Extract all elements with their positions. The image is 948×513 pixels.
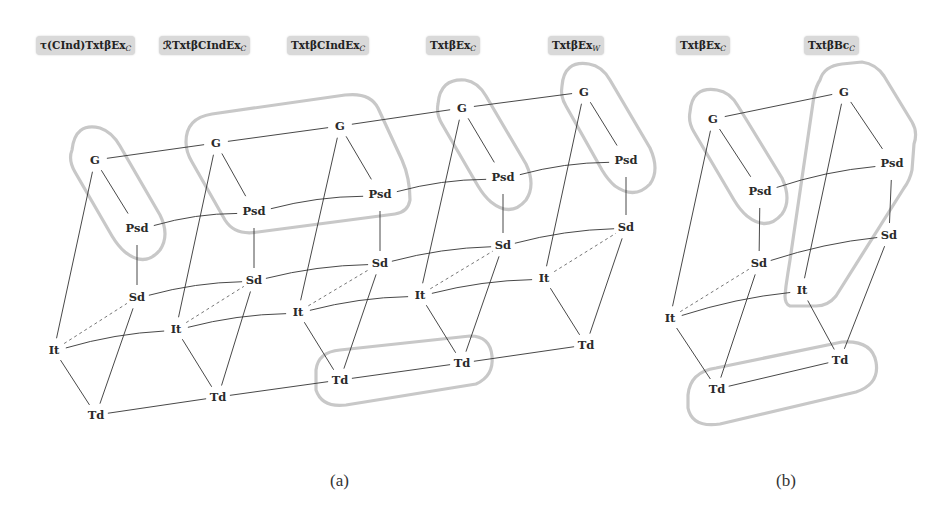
- edge-vertical: [301, 138, 338, 301]
- column-label-subscript: C: [849, 44, 855, 53]
- column-label: TxtβExC: [676, 36, 730, 55]
- edge-cross: [392, 247, 491, 262]
- edge-dashed: [64, 303, 127, 343]
- column-label: TxtβExW: [548, 36, 604, 55]
- edge-dashed: [680, 269, 749, 311]
- column-label-main: ℛTxtβCIndEx: [163, 39, 240, 51]
- column-label: ℛTxtβCIndExC: [159, 36, 250, 55]
- edge-vertical: [808, 301, 835, 350]
- edge-vertical: [61, 360, 90, 405]
- column-label-subscript: W: [592, 44, 600, 53]
- column-label-main: TxtβEx: [552, 39, 592, 51]
- node-psd: Psd: [748, 184, 771, 198]
- column-label: TxtβExC: [426, 36, 480, 55]
- node-psd: Psd: [880, 156, 903, 170]
- edge-cross: [515, 229, 614, 244]
- edge-cross: [188, 314, 286, 328]
- node-it: It: [49, 343, 60, 357]
- edges: [57, 94, 892, 414]
- node-it: It: [293, 305, 304, 319]
- node-td: Td: [454, 356, 471, 370]
- node-g: G: [839, 85, 849, 99]
- edge-cross: [149, 282, 242, 296]
- edge-cross: [230, 382, 328, 396]
- edge-cross: [729, 363, 829, 386]
- node-it: It: [539, 271, 550, 285]
- node-sd: Sd: [495, 238, 511, 252]
- node-td: Td: [210, 390, 227, 404]
- node-it: It: [665, 311, 676, 325]
- edge-vertical: [677, 328, 711, 379]
- edge-vertical: [759, 208, 760, 251]
- edge-vertical: [889, 180, 891, 223]
- edge-vertical: [547, 104, 582, 267]
- node-g: G: [335, 119, 345, 133]
- node-sd: Sd: [881, 228, 897, 242]
- edge-vertical: [468, 118, 494, 162]
- lattice-figure: GPsdSdItTdGPsdSdItTdGPsdSdItTdGPsdSdItTd…: [0, 0, 948, 513]
- edge-vertical: [101, 170, 128, 213]
- edge-cross: [682, 292, 791, 315]
- edge-vertical: [423, 120, 460, 284]
- edge-cross: [108, 399, 206, 413]
- edge-vertical: [844, 246, 884, 349]
- node-td: Td: [578, 338, 595, 352]
- subfigure-label-b: (b): [776, 471, 796, 491]
- node-psd: Psd: [125, 221, 148, 235]
- column-label-main: TxtβCIndEx: [291, 39, 359, 51]
- lattice-diagram: GPsdSdItTdGPsdSdItTdGPsdSdItTdGPsdSdItTd…: [0, 0, 948, 513]
- group-a5-G-Psd: [562, 63, 656, 192]
- edge-vertical: [179, 155, 214, 318]
- node-it: It: [415, 288, 426, 302]
- node-sd: Sd: [372, 256, 388, 270]
- column-label-main: TxtβEx: [430, 39, 470, 51]
- edge-cross: [352, 365, 450, 379]
- column-label: TxtβCIndExC: [287, 36, 369, 55]
- node-td: Td: [88, 408, 105, 422]
- column-label-subscript: C: [359, 44, 365, 53]
- group-b2-G-Psd-Sd-It: [785, 62, 916, 306]
- node-sd: Sd: [751, 256, 767, 270]
- edge-vertical: [590, 102, 617, 145]
- column-label-main: TxtβEx: [680, 39, 720, 51]
- node-td: Td: [832, 353, 849, 367]
- edge-cross: [725, 94, 832, 116]
- nodes: GPsdSdItTdGPsdSdItTdGPsdSdItTdGPsdSdItTd…: [49, 85, 904, 422]
- edge-vertical: [851, 102, 883, 149]
- edge-cross: [228, 128, 328, 142]
- edge-vertical: [550, 288, 579, 335]
- edge-vertical: [182, 339, 211, 387]
- edge-cross: [432, 280, 532, 294]
- node-it: It: [171, 322, 182, 336]
- node-g: G: [90, 153, 100, 167]
- node-g: G: [457, 101, 467, 115]
- group-b1-G-Psd: [690, 89, 788, 223]
- edge-dashed: [554, 233, 616, 271]
- edge-vertical: [57, 172, 93, 339]
- column-label-subscript: C: [125, 44, 131, 53]
- node-psd: Psd: [368, 187, 391, 201]
- column-label-subscript: C: [470, 44, 476, 53]
- edge-vertical: [720, 129, 751, 177]
- node-psd: Psd: [242, 204, 265, 218]
- edge-cross: [266, 265, 368, 279]
- group-a2a3-G-Psd: [186, 95, 410, 233]
- edge-cross: [66, 331, 164, 348]
- node-g: G: [579, 85, 589, 99]
- edge-cross: [520, 162, 609, 174]
- column-label: TxtβBcC: [804, 36, 859, 55]
- edge-cross: [352, 110, 450, 124]
- node-g: G: [211, 136, 221, 150]
- edge-vertical: [222, 153, 246, 196]
- highlight-groups: [71, 62, 916, 425]
- node-sd: Sd: [129, 290, 145, 304]
- edge-vertical: [100, 308, 133, 403]
- node-td: Td: [709, 382, 726, 396]
- node-sd: Sd: [246, 273, 262, 287]
- edge-vertical: [590, 238, 622, 333]
- node-psd: Psd: [614, 153, 637, 167]
- edge-vertical: [344, 274, 376, 368]
- column-label-main: TxtβBc: [808, 39, 849, 51]
- edge-vertical: [426, 305, 455, 353]
- node-g: G: [708, 112, 718, 126]
